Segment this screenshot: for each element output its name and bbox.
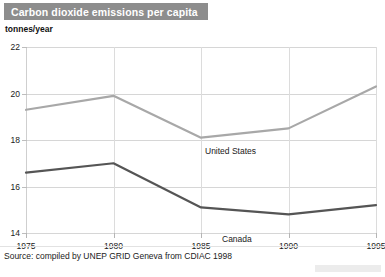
page-title: Carbon dioxide emissions per capita [4, 6, 198, 18]
x-tick-mark [114, 233, 115, 238]
chart-title-band: Carbon dioxide emissions per capita [4, 3, 208, 20]
x-tick-mark [201, 233, 202, 238]
chart-page: Carbon dioxide emissions per capita tonn… [0, 0, 385, 277]
y-tick-label: 18 [2, 135, 20, 145]
y-axis-unit-label: tonnes/year [5, 24, 53, 34]
x-tick-mark [26, 233, 27, 238]
y-tick-label: 14 [2, 228, 20, 238]
x-tick-mark [289, 233, 290, 238]
x-tick-mark [376, 233, 377, 238]
source-caption: Source: compiled by UNEP GRID Geneva fro… [4, 251, 232, 261]
y-tick-label: 22 [2, 42, 20, 52]
y-tick-label: 16 [2, 182, 20, 192]
source-divider [0, 246, 385, 247]
chart-area: 2220181614 19751980198519901995 United S… [0, 38, 385, 243]
y-tick-label: 20 [2, 89, 20, 99]
series-label-canada: Canada [222, 234, 252, 244]
series-lines [26, 47, 376, 233]
footer-placeholder-block [315, 265, 381, 272]
series-line-united-states [26, 87, 376, 138]
series-label-united-states: United States [205, 146, 256, 156]
series-line-canada [26, 163, 376, 214]
